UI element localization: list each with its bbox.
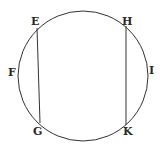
label-e: E bbox=[31, 15, 39, 28]
label-h: H bbox=[122, 15, 132, 28]
label-k: K bbox=[123, 125, 133, 138]
label-g: G bbox=[33, 125, 42, 138]
diagram-canvas: E H F I G K bbox=[0, 0, 160, 153]
chord-eg bbox=[37, 28, 40, 123]
label-i: I bbox=[149, 64, 154, 77]
label-f: F bbox=[8, 66, 16, 79]
